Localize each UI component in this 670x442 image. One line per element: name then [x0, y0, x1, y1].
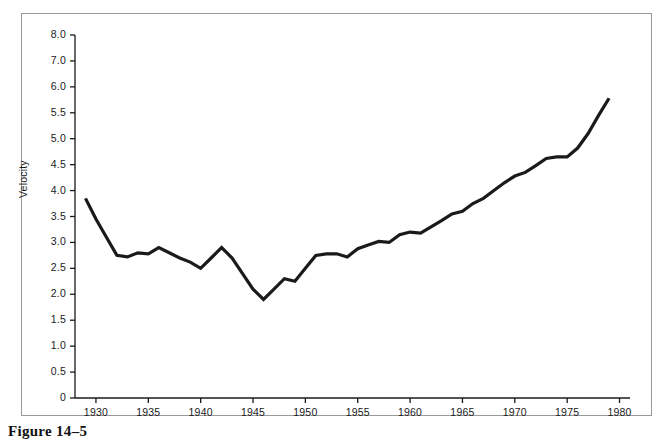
- y-tick-label: 3.5: [0, 210, 66, 222]
- y-tick-label: 7.0: [0, 54, 66, 66]
- y-tick-label: 4.0: [0, 184, 66, 196]
- x-tick-label: 1975: [542, 406, 592, 418]
- x-tick-label: 1980: [595, 406, 645, 418]
- y-tick-label: 6.0: [0, 80, 66, 92]
- x-tick-label: 1950: [280, 406, 330, 418]
- x-tick-label: 1965: [437, 406, 487, 418]
- figure-caption: Figure 14–5: [8, 423, 87, 440]
- y-tick-label: 5.5: [0, 106, 66, 118]
- y-tick-label: 1.0: [0, 339, 66, 351]
- chart-frame: [21, 13, 652, 416]
- y-tick-label: 4.5: [0, 158, 66, 170]
- y-tick-label: 2.0: [0, 287, 66, 299]
- x-tick-label: 1940: [176, 406, 226, 418]
- x-tick-label: 1945: [228, 406, 278, 418]
- y-tick-label: 0.5: [0, 365, 66, 377]
- y-tick-label: 3.0: [0, 235, 66, 247]
- figure-container: 00.51.01.52.02.53.03.54.04.55.05.56.07.0…: [0, 0, 670, 442]
- y-tick-label: 0: [0, 391, 66, 403]
- y-tick-label: 2.5: [0, 261, 66, 273]
- x-tick-label: 1970: [490, 406, 540, 418]
- y-tick-label: 1.5: [0, 313, 66, 325]
- x-tick-label: 1960: [385, 406, 435, 418]
- y-axis-title: Velocity: [17, 160, 29, 198]
- x-tick-label: 1930: [71, 406, 121, 418]
- y-tick-label: 5.0: [0, 132, 66, 144]
- x-tick-label: 1935: [123, 406, 173, 418]
- x-tick-label: 1955: [333, 406, 383, 418]
- y-tick-label: 8.0: [0, 28, 66, 40]
